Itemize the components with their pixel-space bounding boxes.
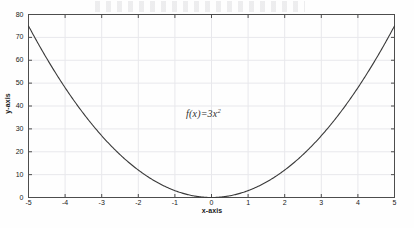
x-tick-label: 0	[202, 199, 222, 206]
y-tick-label: 60	[2, 56, 24, 63]
x-tick-label: 5	[385, 199, 405, 206]
figure-canvas: 01020304050607080 -5-4-3-2-1012345 x-axi…	[0, 0, 414, 228]
y-tick-label: 10	[2, 171, 24, 178]
equation-base: f(x)=3x	[186, 108, 217, 119]
y-tick-label: 80	[2, 11, 24, 18]
x-tick-label: 2	[275, 199, 295, 206]
x-tick-label: -5	[19, 199, 39, 206]
x-tick-label: 1	[238, 199, 258, 206]
equation-exponent: 2	[217, 107, 220, 114]
equation-annotation: f(x)=3x2	[186, 108, 221, 119]
x-tick-label: 3	[311, 199, 331, 206]
y-axis-title: y-axis	[4, 84, 11, 124]
y-tick-label: 30	[2, 125, 24, 132]
x-tick-label: -2	[128, 199, 148, 206]
x-tick-label: 4	[348, 199, 368, 206]
y-tick-label: 20	[2, 148, 24, 155]
grid-lines	[29, 15, 395, 198]
x-tick-label: -1	[165, 199, 185, 206]
x-tick-label: -3	[92, 199, 112, 206]
y-tick-label: 70	[2, 33, 24, 40]
x-tick-label: -4	[55, 199, 75, 206]
x-axis-title: x-axis	[192, 207, 232, 214]
